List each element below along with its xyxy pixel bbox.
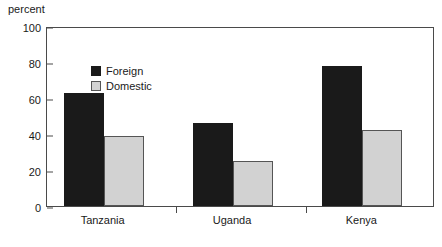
- bar-tanzania-foreign: [64, 93, 104, 206]
- x-axis-label-uganda: Uganda: [213, 214, 252, 227]
- legend-label-foreign: Foreign: [106, 65, 143, 77]
- bar-uganda-foreign: [193, 123, 233, 206]
- bar-group: [64, 28, 144, 206]
- y-axis-tick-mark: [47, 208, 53, 209]
- legend: Foreign Domestic: [91, 64, 152, 94]
- legend-swatch-foreign-icon: [91, 66, 101, 76]
- y-axis-tick-label: 0: [35, 203, 41, 214]
- y-axis-tick-label: 100: [23, 23, 41, 34]
- bar-chart: percent 020406080100 Foreign Domestic Ta…: [0, 0, 442, 247]
- bar-group: [193, 28, 273, 206]
- y-axis-unit-label: percent: [8, 3, 45, 16]
- bars-layer: [47, 28, 433, 206]
- bar-kenya-foreign: [322, 66, 362, 206]
- bar-uganda-domestic: [233, 161, 273, 206]
- bar-kenya-domestic: [362, 130, 402, 206]
- x-axis-label-kenya: Kenya: [346, 214, 377, 227]
- plot-area: 020406080100 Foreign Domestic: [46, 27, 434, 207]
- legend-swatch-domestic-icon: [91, 81, 101, 91]
- legend-item-foreign: Foreign: [91, 64, 152, 78]
- y-axis-tick-label: 80: [29, 59, 41, 70]
- bar-group: [322, 28, 402, 206]
- x-axis-label-tanzania: Tanzania: [81, 214, 125, 227]
- x-axis-tick-mark: [306, 206, 307, 213]
- legend-item-domestic: Domestic: [91, 79, 152, 93]
- legend-label-domestic: Domestic: [106, 80, 152, 92]
- y-axis-tick-label: 40: [29, 131, 41, 142]
- bar-tanzania-domestic: [104, 136, 144, 206]
- y-axis-tick-label: 20: [29, 167, 41, 178]
- y-axis-tick-label: 60: [29, 95, 41, 106]
- x-axis-tick-mark: [176, 206, 177, 213]
